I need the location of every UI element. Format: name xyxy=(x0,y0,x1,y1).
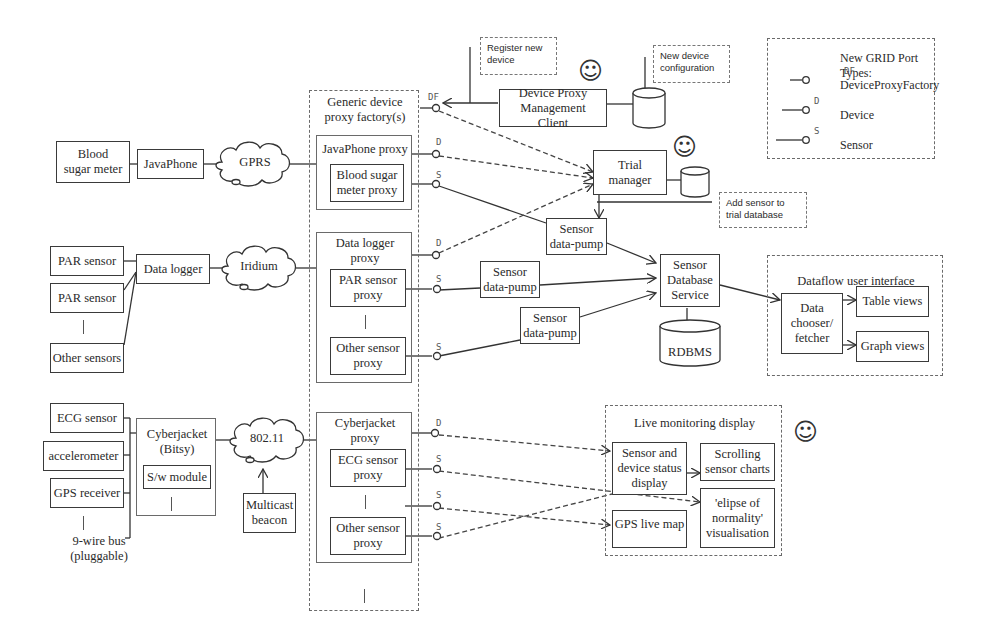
nine-wire-bus-label: 9-wire bus (pluggable) xyxy=(64,534,134,564)
ellipsis-bar xyxy=(365,315,366,329)
legend-label-device-proxy-factory: DeviceProxyFactory xyxy=(840,78,939,93)
par-sensor-box[interactable]: PAR sensor xyxy=(50,283,124,313)
user-smiley-icon: ☺ xyxy=(672,135,697,159)
ellipse-normality-box[interactable]: 'elipse of normality' visualisation xyxy=(700,488,775,548)
table-views-box[interactable]: Table views xyxy=(856,286,929,317)
wifi-802-11-cloud: 802.11 xyxy=(238,431,296,446)
port-label-s: S xyxy=(436,490,441,500)
par-sensor-proxy-box[interactable]: PAR sensor proxy xyxy=(330,269,406,307)
legend-port-code-s: S xyxy=(814,126,819,136)
port-label-d: D xyxy=(436,238,441,248)
other-sensor-proxy-box[interactable]: Other sensor proxy xyxy=(330,517,406,555)
ellipsis-bar xyxy=(83,516,84,530)
port-label-d: D xyxy=(436,137,441,147)
ecg-sensor-box[interactable]: ECG sensor xyxy=(50,403,124,433)
blood-sugar-meter-box[interactable]: Blood sugar meter xyxy=(56,141,130,183)
scrolling-charts-box[interactable]: Scrolling sensor charts xyxy=(700,443,775,481)
gps-receiver-box[interactable]: GPS receiver xyxy=(50,478,124,508)
port-label-s: S xyxy=(436,454,441,464)
gprs-cloud: GPRS xyxy=(226,155,284,170)
legend-port-code-df: DF xyxy=(844,66,855,76)
sensor-data-pump-box[interactable]: Sensor data-pump xyxy=(520,307,580,344)
cyberjacket-proxy-group[interactable]: Cyberjacket proxy ECG sensor proxy Other… xyxy=(316,412,412,563)
javaphone-proxy-title: JavaPhone proxy xyxy=(317,142,413,157)
ellipsis-bar xyxy=(365,495,366,509)
par-sensor-box[interactable]: PAR sensor xyxy=(50,246,124,276)
ellipsis-bar xyxy=(83,320,84,334)
device-proxy-management-client-box[interactable]: Device Proxy Management Client xyxy=(499,89,607,127)
sensor-data-pump-box[interactable]: Sensor data-pump xyxy=(480,261,540,298)
port-label-s: S xyxy=(436,342,441,352)
graph-views-box[interactable]: Graph views xyxy=(856,331,929,362)
port-label-d: D xyxy=(436,418,441,428)
legend-label-device: Device xyxy=(840,108,874,123)
data-logger-proxy-group[interactable]: Data logger proxy PAR sensor proxy Other… xyxy=(316,232,412,383)
note-add-sensor: Add sensor to trial database xyxy=(719,192,807,228)
multicast-beacon-box[interactable]: Multicast beacon xyxy=(243,493,296,533)
sensor-data-pump-box[interactable]: Sensor data-pump xyxy=(546,218,607,255)
gps-live-map-box[interactable]: GPS live map xyxy=(612,510,687,548)
live-monitoring-group: Live monitoring display Sensor and devic… xyxy=(605,405,782,556)
blood-sugar-meter-proxy-box[interactable]: Blood sugar meter proxy xyxy=(330,164,404,202)
cyberjacket-proxy-title: Cyberjacket proxy xyxy=(331,416,399,446)
legend-box: New GRID Port Types: DF DeviceProxyFacto… xyxy=(767,38,935,159)
sensor-status-display-box[interactable]: Sensor and device status display xyxy=(612,442,687,495)
cloud-shapes xyxy=(216,142,304,462)
data-logger-proxy-title: Data logger proxy xyxy=(331,236,399,266)
live-monitoring-title: Live monitoring display xyxy=(606,416,783,431)
port-label-s: S xyxy=(436,170,441,180)
user-smiley-icon: ☺ xyxy=(793,420,818,444)
note-register-device: Register new device xyxy=(480,37,557,75)
port-label-s: S xyxy=(436,274,441,284)
data-logger-box[interactable]: Data logger xyxy=(136,254,210,284)
user-smiley-icon: ☺ xyxy=(578,59,603,83)
cyberjacket-group[interactable]: Cyberjacket (Bitsy) S/w module xyxy=(136,418,216,516)
ellipsis-bar xyxy=(364,589,365,603)
data-chooser-box[interactable]: Data chooser/ fetcher xyxy=(781,293,843,354)
accelerometer-box[interactable]: accelerometer xyxy=(43,441,124,471)
port-label-df: DF xyxy=(428,92,439,102)
javaphone-box[interactable]: JavaPhone xyxy=(137,149,204,179)
trial-manager-box[interactable]: Trial manager xyxy=(593,150,667,195)
cyberjacket-title: Cyberjacket (Bitsy) xyxy=(145,427,209,457)
javaphone-proxy-group[interactable]: JavaPhone proxy Blood sugar meter proxy xyxy=(316,135,412,210)
rdbms-label: RDBMS xyxy=(660,345,720,360)
legend-label-sensor: Sensor xyxy=(840,138,873,153)
other-sensors-box[interactable]: Other sensors xyxy=(50,343,124,373)
factory-title: Generic device proxy factory(s) xyxy=(312,95,418,125)
note-new-device-config: New device configuration xyxy=(653,45,730,83)
ellipsis-bar xyxy=(171,497,172,511)
dataflow-ui-group: Dataflow user interface Data chooser/ fe… xyxy=(767,255,943,376)
sw-module-box[interactable]: S/w module xyxy=(143,465,211,489)
other-sensor-proxy-box[interactable]: Other sensor proxy xyxy=(330,337,406,375)
legend-port-code-d: D xyxy=(814,96,819,106)
sensor-database-service-box[interactable]: Sensor Database Service xyxy=(660,254,720,307)
iridium-cloud: Iridium xyxy=(230,259,288,274)
ecg-sensor-proxy-box[interactable]: ECG sensor proxy xyxy=(330,449,406,487)
port-label-s: S xyxy=(436,522,441,532)
